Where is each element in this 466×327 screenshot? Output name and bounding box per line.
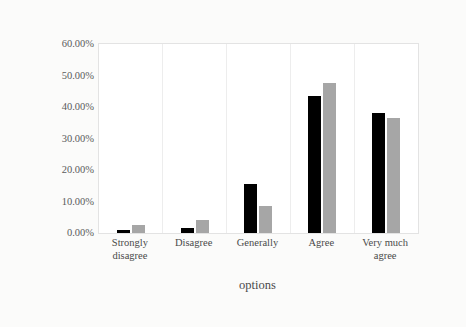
y-axis-tick-labels: 0.00%10.00%20.00%30.00%40.00%50.00%60.00… xyxy=(38,36,94,236)
y-axis-tick-label: 40.00% xyxy=(38,101,94,112)
x-axis-tick-label: Disagree xyxy=(162,236,226,262)
y-axis-tick-label: 10.00% xyxy=(38,195,94,206)
bar-series-2[interactable] xyxy=(259,206,272,233)
bar-group xyxy=(227,44,291,233)
plot-area xyxy=(98,43,419,234)
x-axis-tick-label: Very much agree xyxy=(353,236,417,262)
bar-series-2[interactable] xyxy=(323,83,336,233)
x-axis-tick-label: Generally xyxy=(226,236,290,262)
bar-group xyxy=(163,44,227,233)
bar-series-1[interactable] xyxy=(372,113,385,233)
y-axis-tick-label: 60.00% xyxy=(38,38,94,49)
bar-group xyxy=(290,44,354,233)
bar-series-container xyxy=(99,44,418,233)
bar-series-1[interactable] xyxy=(117,230,130,233)
bar-chart: proportion 0.00%10.00%20.00%30.00%40.00%… xyxy=(0,0,466,327)
bar-series-1[interactable] xyxy=(308,96,321,233)
bar-series-2[interactable] xyxy=(132,225,145,233)
x-axis-tick-labels: Strongly disagreeDisagreeGenerallyAgreeV… xyxy=(98,236,417,262)
y-axis-tick-label: 50.00% xyxy=(38,69,94,80)
x-axis-title: options xyxy=(98,278,417,293)
y-axis-tick-label: 0.00% xyxy=(38,227,94,238)
bar-series-2[interactable] xyxy=(196,220,209,233)
bar-group xyxy=(99,44,163,233)
y-axis-tick-label: 20.00% xyxy=(38,164,94,175)
x-axis-tick-label: Strongly disagree xyxy=(98,236,162,262)
bar-series-1[interactable] xyxy=(181,228,194,233)
bar-series-1[interactable] xyxy=(244,184,257,233)
y-axis-tick-label: 30.00% xyxy=(38,132,94,143)
bar-group xyxy=(354,44,418,233)
bar-series-2[interactable] xyxy=(387,118,400,233)
x-axis-tick-label: Agree xyxy=(289,236,353,262)
